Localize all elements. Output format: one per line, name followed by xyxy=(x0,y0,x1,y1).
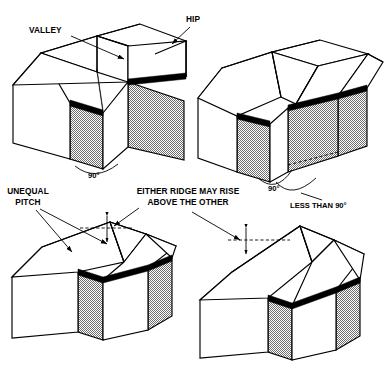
panel-top-left: VALLEY HIP 90° xyxy=(13,14,200,180)
panel-bottom-right xyxy=(192,212,364,360)
hip-label: HIP xyxy=(186,14,200,24)
angle-less-leader-tr xyxy=(301,193,322,200)
either-ridge-label-line2: ABOVE THE OTHER xyxy=(147,197,228,207)
angle-label-tl: 90° xyxy=(88,171,99,180)
wall-center-front-tr xyxy=(270,108,288,182)
roof-intersection-figure: VALLEY HIP 90° xyxy=(0,0,386,365)
angle-label-90-tr: 90° xyxy=(268,184,279,193)
wall-main-right-bl xyxy=(78,272,103,340)
roof-main-left-br xyxy=(200,226,312,300)
either-ridge-leader-bl xyxy=(114,208,139,226)
angle-arc-less-tr xyxy=(276,178,316,190)
wall-main-right-tl xyxy=(128,82,184,160)
panel-top-right: 90° LESS THAN 90° xyxy=(198,40,383,210)
either-ridge-leader-br xyxy=(192,212,240,240)
wall-far-tr xyxy=(338,88,367,156)
either-ridge-label-line1: EITHER RIDGE MAY RISE xyxy=(137,186,240,196)
unequal-pitch-label-line1: UNEQUAL xyxy=(7,186,49,196)
angle-label-less-tr: LESS THAN 90° xyxy=(290,201,347,210)
valley-label: VALLEY xyxy=(29,25,62,35)
wall-wing-front-tl xyxy=(103,82,128,169)
diagram-canvas: VALLEY HIP 90° xyxy=(0,0,386,365)
unequal-pitch-label-line2: PITCH xyxy=(15,197,40,207)
